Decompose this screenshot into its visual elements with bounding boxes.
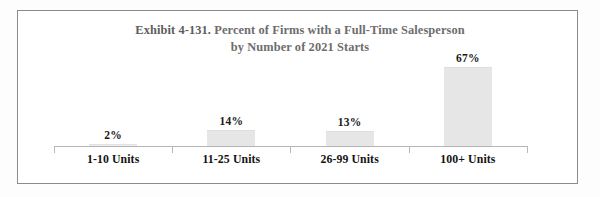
bar-rect bbox=[207, 130, 255, 146]
bar-series: 2% 14% 13% 67% bbox=[54, 58, 527, 146]
bar-value-label: 13% bbox=[338, 116, 362, 128]
bar-value-label: 14% bbox=[220, 115, 244, 127]
bar-rect bbox=[444, 67, 492, 146]
x-axis-category-label: 100+ Units bbox=[409, 152, 527, 167]
x-axis-category-label: 26-99 Units bbox=[291, 152, 409, 167]
bar-value-label: 2% bbox=[104, 129, 122, 141]
x-axis-tick bbox=[527, 146, 528, 153]
bar-rect bbox=[326, 131, 374, 146]
bar-column: 14% bbox=[172, 58, 290, 146]
x-axis-category-label: 11-25 Units bbox=[172, 152, 290, 167]
chart-title-line-2: by Number of 2021 Starts bbox=[0, 39, 600, 56]
bar-column: 2% bbox=[54, 58, 172, 146]
x-axis-category-label: 1-10 Units bbox=[54, 152, 172, 167]
figure-page: Exhibit 4-131. Percent of Firms with a F… bbox=[0, 0, 600, 197]
x-axis-labels: 1-10 Units 11-25 Units 26-99 Units 100+ … bbox=[54, 152, 527, 167]
chart-title-line-1: Exhibit 4-131. Percent of Firms with a F… bbox=[0, 22, 600, 39]
bar-value-label: 67% bbox=[456, 52, 480, 64]
chart-title-text: Percent of Firms with a Full-Time Salesp… bbox=[214, 23, 464, 37]
bar-column: 13% bbox=[291, 58, 409, 146]
chart-title: Exhibit 4-131. Percent of Firms with a F… bbox=[0, 22, 600, 56]
plot-area: 2% 14% 13% 67% bbox=[54, 58, 527, 146]
bar-column: 67% bbox=[409, 58, 527, 146]
exhibit-number: Exhibit 4-131. bbox=[135, 23, 211, 37]
